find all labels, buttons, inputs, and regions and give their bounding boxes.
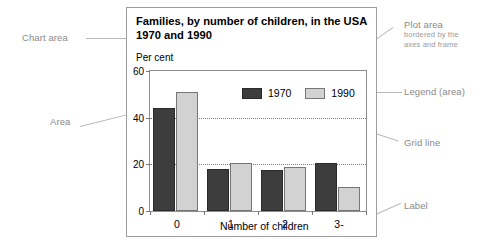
annotation-label-label: Label xyxy=(404,200,428,211)
legend-item-1990: 1990 xyxy=(305,87,354,99)
annotation-plot-area-label: Plot area xyxy=(404,19,459,30)
legend-label-1990: 1990 xyxy=(331,87,354,99)
chart-legend: 1970 1990 xyxy=(242,87,355,99)
bar-1990-1 xyxy=(230,163,252,211)
annotation-chart-area-label: Chart area xyxy=(22,32,68,43)
y-axis-tick xyxy=(146,71,150,72)
annotation-grid-line: Grid line xyxy=(404,137,440,148)
x-axis-tick xyxy=(312,211,313,215)
y-axis-tick xyxy=(146,118,150,119)
x-axis-tick-label: 0 xyxy=(174,218,180,230)
chart-area: Families, by number of children, in the … xyxy=(126,7,377,237)
bar-1970-0 xyxy=(153,108,175,211)
annotation-area: Area xyxy=(50,116,70,127)
x-axis-tick xyxy=(366,211,367,215)
annotation-plot-area: Plot area bordered by the axes and frame xyxy=(404,19,459,49)
legend-swatch-1970-icon xyxy=(242,88,262,99)
bar-1970-1 xyxy=(207,169,229,211)
y-axis-tick-label: 60 xyxy=(133,66,144,77)
y-axis-tick-label: 20 xyxy=(133,159,144,170)
x-axis-tick xyxy=(204,211,205,215)
bar-1990-2 xyxy=(284,167,306,211)
leader-line-chart-area xyxy=(86,38,126,39)
x-axis-tick xyxy=(150,211,151,215)
x-axis-tick xyxy=(258,211,259,215)
y-axis-tick-label: 0 xyxy=(138,206,144,217)
plot-area: 02040600123- 1970 1990 xyxy=(149,70,367,212)
legend-item-1970: 1970 xyxy=(242,87,291,99)
annotation-legend-area: Legend (area) xyxy=(404,86,465,97)
chart-title: Families, by number of children, in the … xyxy=(136,15,374,42)
annotation-label: Label xyxy=(404,200,428,211)
legend-swatch-1990-icon xyxy=(305,88,325,99)
y-axis-title: Per cent xyxy=(136,52,173,63)
annotation-chart-area: Chart area xyxy=(22,32,68,43)
x-axis-title: Number of children xyxy=(220,220,309,232)
y-axis-tick xyxy=(146,164,150,165)
bar-1970-2 xyxy=(261,170,283,211)
legend-label-1970: 1970 xyxy=(268,87,291,99)
bar-1970-3- xyxy=(315,163,337,211)
annotation-legend-area-label: Legend (area) xyxy=(404,86,465,97)
annotation-area-label: Area xyxy=(50,116,70,127)
bar-1990-3- xyxy=(338,187,360,212)
annotation-plot-area-sub-line1: bordered by the xyxy=(404,30,459,40)
annotation-grid-line-label: Grid line xyxy=(404,137,440,148)
x-axis-tick-label: 3- xyxy=(334,218,343,230)
annotation-plot-area-sub-line2: axes and frame xyxy=(404,40,459,50)
bar-1990-0 xyxy=(176,92,198,211)
y-axis-tick-label: 40 xyxy=(133,112,144,123)
